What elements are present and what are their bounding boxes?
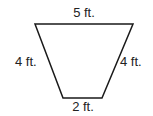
trapezoid-diagram: 5 ft. 4 ft. 4 ft. 2 ft.	[0, 0, 153, 116]
top-side-label: 5 ft.	[73, 5, 95, 20]
bottom-side-label: 2 ft.	[72, 99, 94, 114]
right-side-label: 4 ft.	[120, 54, 142, 69]
trapezoid-shape	[35, 24, 133, 98]
left-side-label: 4 ft.	[15, 54, 37, 69]
